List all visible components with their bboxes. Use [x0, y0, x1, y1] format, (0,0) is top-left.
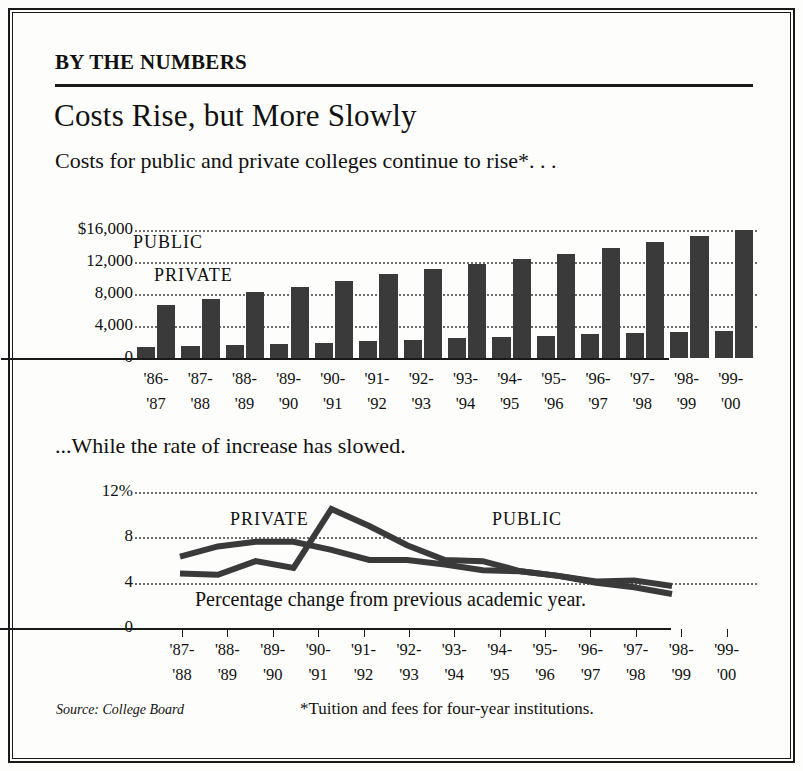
x-tick-line1: '99-: [709, 366, 753, 391]
bar-public: [359, 341, 377, 358]
line-chart-x-tick: '97-'98: [614, 637, 658, 687]
line-chart-x-tick: '99-'00: [705, 637, 749, 687]
x-tick-line2: '88: [160, 662, 204, 687]
x-tick-line1: '90-: [296, 637, 340, 662]
x-tick-line2: '00: [709, 391, 753, 416]
x-tick-line1: '88-: [222, 366, 266, 391]
x-tick-line2: '95: [488, 391, 532, 416]
bar-chart-x-tick: '99-'00: [709, 366, 753, 416]
x-tick-mark: [318, 629, 319, 637]
bar-public: [181, 346, 199, 358]
x-tick-line1: '95-: [532, 366, 576, 391]
x-tick-line1: '97-: [614, 637, 658, 662]
x-tick-line2: '97: [568, 662, 612, 687]
x-tick-mark: [545, 629, 546, 637]
x-tick-line2: '95: [478, 662, 522, 687]
x-tick-line2: '91: [311, 391, 355, 416]
line-chart-y-tick: 8: [125, 526, 134, 546]
bar-chart-x-tick: '96-'97: [576, 366, 620, 416]
graphic-page: BY THE NUMBERS Costs Rise, but More Slow…: [0, 0, 803, 771]
x-tick-line2: '98: [614, 662, 658, 687]
footnote-text: *Tuition and fees for four-year institut…: [300, 699, 594, 719]
x-tick-line1: '97-: [620, 366, 664, 391]
x-tick-line2: '94: [443, 391, 487, 416]
x-tick-line1: '90-: [311, 366, 355, 391]
bar-private: [690, 236, 708, 358]
x-tick-line2: '88: [178, 391, 222, 416]
line-chart-x-tick: '98-'99: [659, 637, 703, 687]
x-tick-line2: '90: [251, 662, 295, 687]
x-tick-line1: '92-: [387, 637, 431, 662]
bar-public: [315, 343, 333, 358]
x-tick-mark: [409, 629, 410, 637]
bar-private: [246, 292, 264, 358]
line-chart-x-tick: '94-'95: [478, 637, 522, 687]
bar-group: [448, 205, 486, 358]
line-chart-x-tick: '96-'97: [568, 637, 612, 687]
line-chart-caption: Percentage change from previous academic…: [195, 588, 586, 611]
bar-chart-x-tick: '95-'96: [532, 366, 576, 416]
x-tick-mark: [590, 629, 591, 637]
bar-group: [359, 205, 397, 358]
x-tick-line2: '97: [576, 391, 620, 416]
bar-chart-x-tick: '93-'94: [443, 366, 487, 416]
bar-public: [670, 332, 688, 358]
line-chart-x-tick: '95-'96: [523, 637, 567, 687]
x-tick-line1: '94-: [488, 366, 532, 391]
bar-public: [270, 344, 288, 358]
x-tick-line1: '86-: [134, 366, 178, 391]
x-tick-line1: '87-: [178, 366, 222, 391]
bar-chart-y-tick: 12,000: [86, 251, 133, 271]
x-tick-line2: '00: [705, 662, 749, 687]
bar-chart-y-tick: 0: [125, 347, 134, 367]
bar-group: [315, 205, 353, 358]
bar-private: [602, 248, 620, 358]
x-tick-line1: '89-: [267, 366, 311, 391]
bar-chart-baseline: [1, 358, 669, 360]
source-credit: Source: College Board: [56, 702, 184, 718]
bar-chart: $16,00012,0008,0004,0000 PUBLIC PRIVATE: [47, 205, 757, 365]
bar-group: [537, 205, 575, 358]
bar-group: [404, 205, 442, 358]
bar-chart-x-tick: '87-'88: [178, 366, 222, 416]
bar-public: [581, 334, 599, 358]
bar-public: [715, 331, 733, 358]
bar-chart-x-tick: '98-'99: [664, 366, 708, 416]
bar-private: [335, 281, 353, 358]
bar-chart-x-tick: '97-'98: [620, 366, 664, 416]
x-tick-line1: '91-: [342, 637, 386, 662]
bar-group: [270, 205, 308, 358]
x-tick-line1: '92-: [399, 366, 443, 391]
x-tick-mark: [500, 629, 501, 637]
bar-chart-x-tick: '86-'87: [134, 366, 178, 416]
line-chart-legend-public: PUBLIC: [492, 509, 562, 530]
x-tick-line1: '98-: [664, 366, 708, 391]
bar-private: [202, 299, 220, 358]
bar-group: [670, 205, 708, 358]
kicker-label: BY THE NUMBERS: [55, 50, 247, 75]
bar-group: [626, 205, 664, 358]
bar-chart-legend-private: PRIVATE: [154, 265, 233, 286]
x-tick-line2: '89: [205, 662, 249, 687]
line-chart-y-tick: 12%: [102, 481, 133, 501]
line-chart-x-tick: '89-'90: [251, 637, 295, 687]
x-tick-line2: '89: [222, 391, 266, 416]
bar-public: [492, 337, 510, 358]
bar-chart-legend-public: PUBLIC: [133, 232, 203, 253]
bar-public: [448, 338, 466, 358]
x-tick-line1: '93-: [432, 637, 476, 662]
bar-chart-x-tick: '88-'89: [222, 366, 266, 416]
x-tick-mark: [454, 629, 455, 637]
line-chart-x-tick: '88-'89: [205, 637, 249, 687]
bar-chart-x-axis: '86-'87'87-'88'88-'89'89-'90'90-'91'91-'…: [135, 366, 775, 422]
x-tick-mark: [636, 629, 637, 637]
x-tick-mark: [727, 629, 728, 637]
x-tick-mark: [227, 629, 228, 637]
bar-private: [513, 259, 531, 358]
x-tick-line1: '98-: [659, 637, 703, 662]
x-tick-line2: '99: [664, 391, 708, 416]
x-tick-line1: '95-: [523, 637, 567, 662]
x-tick-line2: '92: [355, 391, 399, 416]
x-tick-line2: '92: [342, 662, 386, 687]
bar-group: [492, 205, 530, 358]
